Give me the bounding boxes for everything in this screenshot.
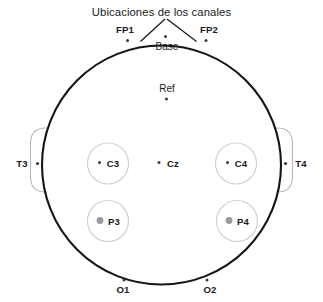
electrode-dot-c4 [226, 161, 229, 164]
electrode-dot-cz [158, 161, 161, 164]
eeg-head-map-svg: Ubicaciones de los canales FP1 FP2 Base … [0, 0, 323, 302]
electrode-dot-t3 [36, 162, 39, 165]
electrode-label-p4: P4 [237, 216, 250, 227]
electrode-label-base: Base [156, 41, 179, 52]
electrode-dot-p3 [97, 217, 104, 224]
electrode-dot-t4 [284, 162, 287, 165]
electrode-dot-base [164, 35, 167, 38]
electrode-dot-fp1 [126, 39, 129, 42]
electrode-dot-o2 [206, 279, 209, 282]
leader-line-right [167, 19, 197, 42]
electrode-label-cz: Cz [167, 158, 179, 169]
electrode-label-t3: T3 [16, 158, 28, 169]
electrode-dot-ref [165, 98, 168, 101]
electrode-label-fp2: FP2 [200, 24, 218, 35]
eeg-channel-locations-diagram: Ubicaciones de los canales FP1 FP2 Base … [0, 0, 323, 302]
electrode-dot-o1 [123, 279, 126, 282]
electrode-label-o1: O1 [116, 284, 130, 295]
leader-line-left [141, 19, 166, 42]
electrode-label-c4: C4 [235, 158, 248, 169]
diagram-title: Ubicaciones de los canales [92, 6, 232, 18]
electrode-label-p3: P3 [108, 216, 120, 227]
electrode-dot-p4 [226, 217, 233, 224]
electrode-label-t4: T4 [295, 158, 307, 169]
electrode-label-fp1: FP1 [116, 24, 135, 35]
electrode-label-ref: Ref [159, 83, 175, 94]
electrode-label-o2: O2 [203, 284, 216, 295]
electrode-label-c3: C3 [107, 158, 120, 169]
electrode-dot-fp2 [205, 39, 208, 42]
electrode-dot-c3 [98, 161, 101, 164]
